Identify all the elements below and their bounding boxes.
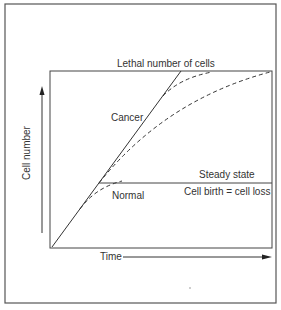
lower-dashed-curve: [99, 72, 270, 183]
y-arrowhead-icon: [40, 86, 45, 95]
x-arrowhead-icon: [262, 255, 272, 260]
steady-state-equation: Cell birth = cell loss: [184, 187, 270, 197]
x-axis-label: Time: [100, 252, 122, 262]
speck: [189, 287, 190, 288]
y-axis-label: Cell number: [22, 128, 32, 180]
outer-frame: [5, 4, 276, 303]
cancer-growth-line: [52, 71, 181, 247]
diagram-canvas: [0, 0, 281, 310]
lethal-label: Lethal number of cells: [117, 59, 215, 69]
cell-growth-diagram: Lethal number of cells Cancer Normal Ste…: [0, 0, 281, 310]
cancer-label: Cancer: [111, 113, 143, 123]
steady-state-label: Steady state: [199, 170, 255, 180]
upper-dashed-curve: [163, 72, 212, 96]
normal-label: Normal: [112, 191, 144, 201]
